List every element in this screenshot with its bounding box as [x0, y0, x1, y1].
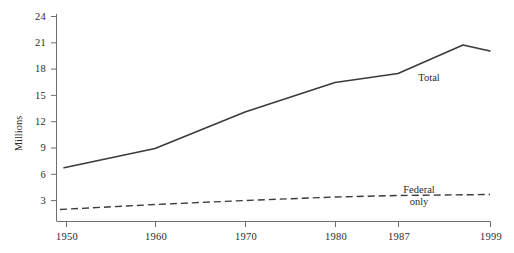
y-tick-label-6: 6: [24, 169, 46, 180]
series-label-federal-line1: Federal: [396, 184, 442, 196]
x-tick-label-1999: 1999: [471, 231, 511, 242]
series-line-total: [64, 45, 490, 168]
x-axis-ticks: [67, 222, 491, 228]
chart-plot-area: [0, 0, 514, 253]
y-tick-label-3: 3: [24, 195, 46, 206]
series-label-federal-line2: only: [396, 196, 442, 208]
y-axis-ticks: [51, 17, 57, 201]
chart-container: 24 21 18 15 12 9 6 3 1950 1960 1970 1980…: [0, 0, 514, 253]
y-tick-label-9: 9: [24, 142, 46, 153]
y-tick-label-18: 18: [24, 63, 46, 74]
y-tick-label-21: 21: [24, 37, 46, 48]
y-tick-label-24: 24: [24, 11, 46, 22]
series-label-federal-only: Federal only: [396, 184, 442, 207]
y-tick-label-12: 12: [24, 116, 46, 127]
y-tick-label-15: 15: [24, 90, 46, 101]
x-tick-label-1980: 1980: [316, 231, 356, 242]
x-tick-label-1950: 1950: [47, 231, 87, 242]
series-label-total: Total: [409, 72, 449, 83]
y-axis-title: Millions: [13, 104, 24, 164]
x-tick-label-1987: 1987: [379, 231, 419, 242]
x-tick-label-1960: 1960: [136, 231, 176, 242]
x-tick-label-1970: 1970: [226, 231, 266, 242]
